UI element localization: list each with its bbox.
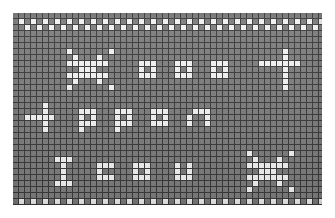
led-matrix-panel[interactable]	[13, 13, 322, 205]
pixel-on	[319, 199, 322, 205]
pixel-matrix	[13, 13, 322, 205]
led-sign-screenshot: SEASON GREETINGS 2024 snowflake alternat…	[0, 0, 335, 218]
